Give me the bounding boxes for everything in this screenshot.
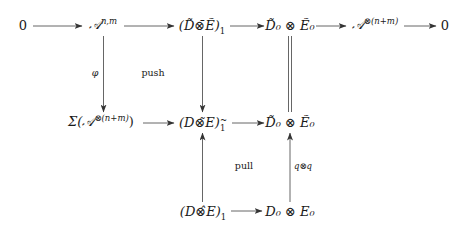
label-push: push: [141, 67, 164, 79]
label-phi: φ: [92, 67, 99, 79]
node-dtilde-etilde-1: (D̃⊗̄Ẽ)1: [179, 18, 225, 34]
label-q-tensor-q: q⊗q: [294, 160, 312, 172]
node-sigma: Σ(𝒜⊗(n+m)): [68, 114, 134, 130]
node-d-e-hat-1: (D⊗̂E)1: [180, 204, 226, 220]
node-d-e-tilde-1: (D⊗̃E)~1: [179, 115, 227, 132]
node-a-nm: 𝒜n,m: [89, 17, 117, 33]
node-d0tilde-e0tilde-top: D̃₀ ⊗ Ẽ₀: [265, 18, 315, 34]
node-zero-left: 0: [19, 18, 27, 34]
label-pull: pull: [235, 160, 253, 172]
node-a-tensor: 𝒜⊗(n+m): [352, 17, 398, 33]
node-zero-right: 0: [441, 18, 449, 34]
node-d0-e0: D₀ ⊗ E₀: [265, 204, 315, 220]
node-d0tilde-e0tilde-mid: D̃₀ ⊗ Ẽ₀: [265, 115, 315, 131]
